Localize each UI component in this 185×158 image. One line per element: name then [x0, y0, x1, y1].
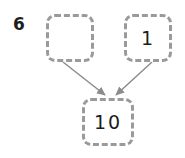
worksheet-problem: 6 1 10	[0, 0, 185, 158]
addend-box-right-value: 1	[141, 29, 155, 48]
sum-box[interactable]: 10	[82, 98, 134, 146]
addend-box-right[interactable]: 1	[124, 14, 172, 62]
arrow-right-to-sum	[116, 62, 152, 95]
arrow-left-to-sum	[63, 62, 105, 95]
sum-box-value: 10	[94, 113, 122, 132]
addend-box-left[interactable]	[46, 14, 94, 62]
